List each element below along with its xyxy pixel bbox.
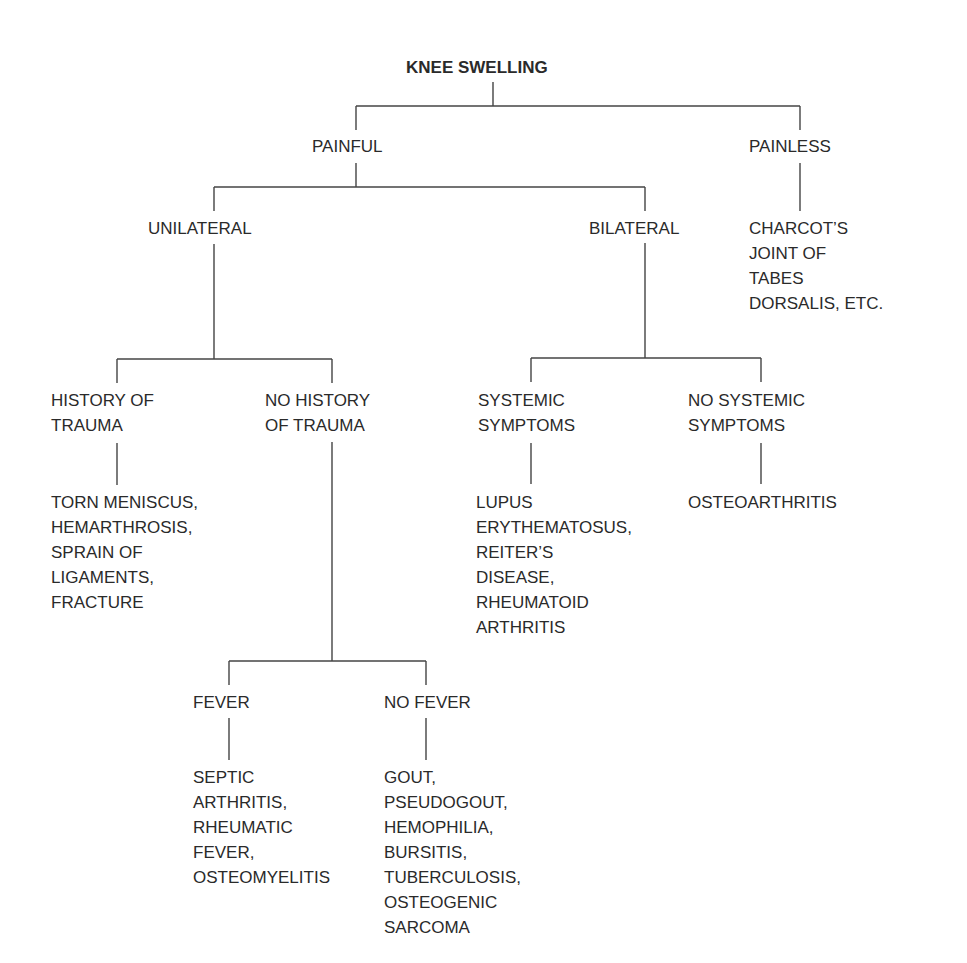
node-systemic-symptoms: SYSTEMIC SYMPTOMS: [478, 388, 575, 438]
node-fever-result: SEPTIC ARTHRITIS, RHEUMATIC FEVER, OSTEO…: [193, 765, 330, 890]
node-painless: PAINLESS: [749, 134, 831, 159]
node-no-systemic-result: OSTEOARTHRITIS: [688, 490, 837, 515]
node-no-history-of-trauma: NO HISTORY OF TRAUMA: [265, 388, 370, 438]
node-painless-result: CHARCOT’S JOINT OF TABES DORSALIS, ETC.: [749, 216, 883, 316]
node-painful: PAINFUL: [312, 134, 383, 159]
node-history-trauma-result: TORN MENISCUS, HEMARTHROSIS, SPRAIN OF L…: [51, 490, 198, 615]
node-no-systemic-symptoms: NO SYSTEMIC SYMPTOMS: [688, 388, 805, 438]
node-no-fever: NO FEVER: [384, 690, 471, 715]
node-systemic-result: LUPUS ERYTHEMATOSUS, REITER’S DISEASE, R…: [476, 490, 632, 640]
node-bilateral: BILATERAL: [589, 216, 679, 241]
node-history-of-trauma: HISTORY OF TRAUMA: [51, 388, 154, 438]
node-no-fever-result: GOUT, PSEUDOGOUT, HEMOPHILIA, BURSITIS, …: [384, 765, 521, 940]
root-node-knee-swelling: KNEE SWELLING: [406, 55, 548, 80]
node-fever: FEVER: [193, 690, 250, 715]
node-unilateral: UNILATERAL: [148, 216, 252, 241]
